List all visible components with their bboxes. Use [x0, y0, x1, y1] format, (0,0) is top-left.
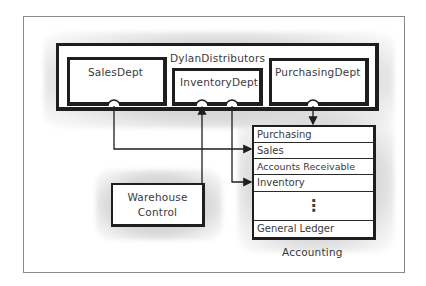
inventory-to-accounting-line: [232, 106, 251, 182]
connector-lines: [0, 0, 426, 286]
sales-port-icon: [108, 100, 120, 106]
purchasing-port-icon: [307, 100, 319, 106]
inventory-port-in-icon: [196, 100, 208, 106]
inventory-port-out-icon: [226, 100, 238, 106]
sales-to-accounting-line: [114, 106, 251, 149]
